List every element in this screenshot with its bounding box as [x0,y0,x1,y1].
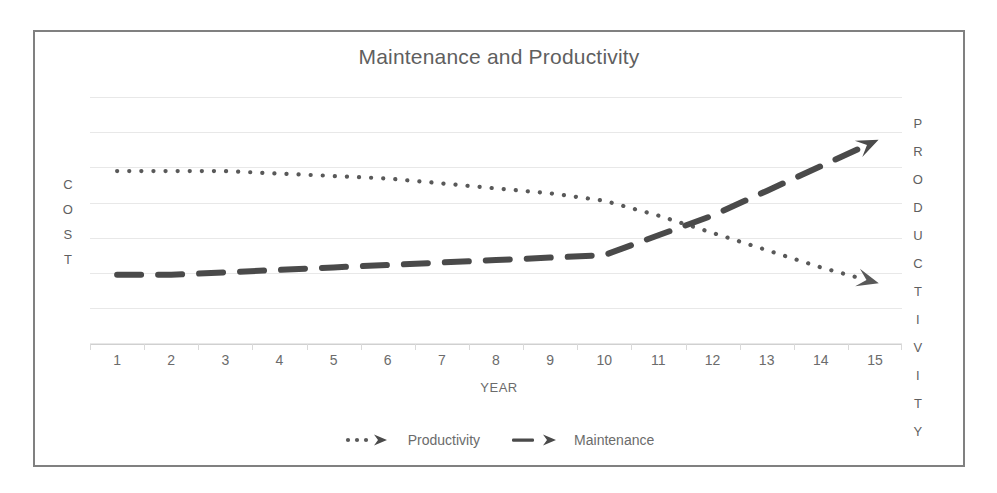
chart-legend: Productivity Maintenance [35,432,963,448]
x-tick-label: 5 [330,352,338,368]
axis-title-letter: P [910,110,926,138]
axis-title-letter: T [910,390,926,418]
arrowhead-productivity [855,269,879,286]
plot-area [90,97,902,344]
chart-title: Maintenance and Productivity [35,45,963,69]
x-tick [686,344,687,350]
x-tick-label: 10 [596,352,612,368]
x-tick-label: 3 [221,352,229,368]
axis-title-letter: T [60,247,76,272]
x-tick-label: 15 [867,352,883,368]
x-tick-label: 4 [276,352,284,368]
dashed-arrow-marker [510,433,568,447]
x-tick-label: 9 [546,352,554,368]
x-tick [198,344,199,350]
x-axis-title: YEAR [35,380,963,395]
axis-title-letter: I [910,306,926,334]
axis-title-letter: S [60,222,76,247]
x-tick [361,344,362,350]
axis-title-letter: D [910,194,926,222]
x-axis-line [90,344,902,345]
axis-title-letter: O [910,166,926,194]
x-tick [252,344,253,350]
x-tick [307,344,308,350]
y-axis-left-title: COST [60,172,76,272]
x-tick-label: 6 [384,352,392,368]
legend-item-maintenance[interactable]: Maintenance [510,432,654,448]
axis-title-letter: C [910,250,926,278]
x-tick [848,344,849,350]
x-tick [740,344,741,350]
legend-label: Maintenance [574,432,654,448]
axis-title-letter: R [910,138,926,166]
x-tick-label: 8 [492,352,500,368]
x-tick [90,344,91,350]
x-tick-label: 7 [438,352,446,368]
x-tick-label: 1 [113,352,121,368]
axis-title-letter: O [60,197,76,222]
x-tick-label: 2 [167,352,175,368]
x-axis-tick-labels: 123456789101112131415 [90,352,902,374]
y-axis-right-title: PRODUCTIVITY [910,110,926,446]
x-tick [523,344,524,350]
x-tick-label: 12 [705,352,721,368]
x-tick [794,344,795,350]
x-tick-label: 13 [759,352,775,368]
chart-frame: Maintenance and Productivity 12345678910… [33,30,965,467]
x-tick [469,344,470,350]
x-tick [577,344,578,350]
axis-title-letter: C [60,172,76,197]
x-tick [901,344,902,350]
series-line-maintenance [117,148,860,275]
axis-title-letter: U [910,222,926,250]
legend-label: Productivity [408,432,480,448]
series-plot [90,97,902,344]
x-tick-label: 14 [813,352,829,368]
x-tick [415,344,416,350]
x-tick-label: 11 [651,352,666,368]
dotted-arrow-marker [344,433,402,447]
x-tick [631,344,632,350]
axis-title-letter: I [910,362,926,390]
legend-item-productivity[interactable]: Productivity [344,432,480,448]
axis-title-letter: V [910,334,926,362]
x-tick [144,344,145,350]
axis-title-letter: T [910,278,926,306]
